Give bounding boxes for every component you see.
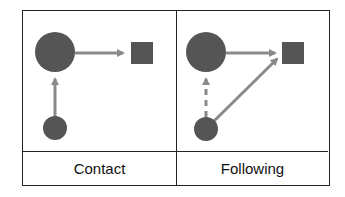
panel-label: Contact [23,152,176,185]
panel-contact: Contact [23,11,177,185]
square-node [131,42,153,64]
contact-figure [23,11,176,152]
large-node [186,32,226,72]
small-node [43,116,67,140]
edge-small-to-square [213,59,277,122]
small-node [194,117,218,141]
diagram-frame: Contact [22,10,330,186]
square-node [282,42,304,64]
following-figure [177,11,328,152]
panel-label: Following [177,152,328,185]
panel-following: Following [177,11,328,185]
large-node [35,32,75,72]
